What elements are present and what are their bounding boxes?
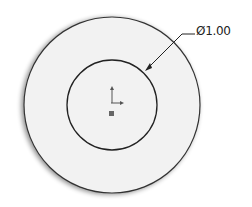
outer-circle-face[interactable] <box>24 17 200 193</box>
diameter-dimension[interactable]: Ø1.00 <box>196 24 231 38</box>
